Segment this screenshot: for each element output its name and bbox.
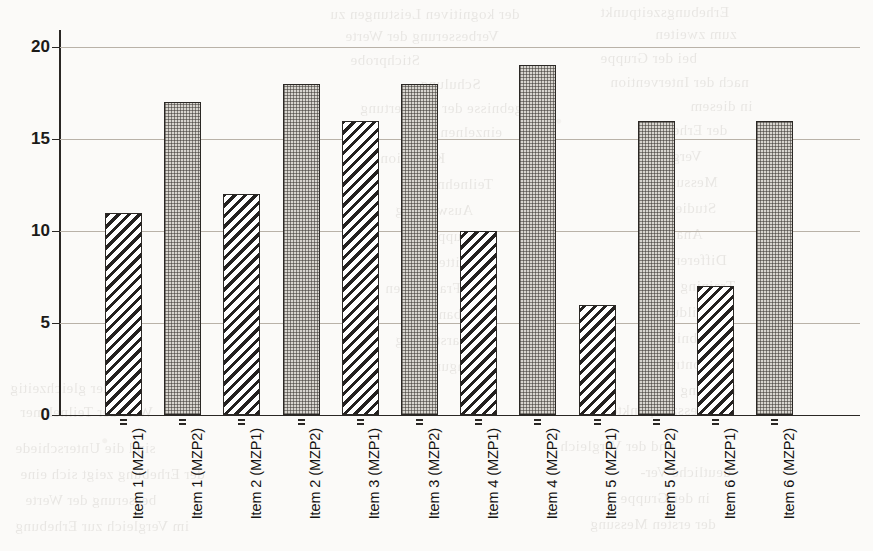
x-tick-mark: [416, 423, 423, 425]
bar: [697, 286, 734, 415]
x-tick-mark: [712, 419, 719, 421]
y-tick-label: 5: [41, 313, 50, 333]
x-tick-mark: [238, 423, 245, 425]
y-tick-label: 0: [41, 405, 50, 425]
bar: [460, 231, 497, 415]
plot-area: [60, 47, 860, 415]
bar: [342, 121, 379, 415]
x-tick-mark: [653, 423, 660, 425]
x-tick-mark: [298, 419, 305, 421]
x-tick-mark: [475, 423, 482, 425]
x-tick-mark: [179, 419, 186, 421]
x-tick-mark: [771, 423, 778, 425]
x-category-label: Item 2 (MZP1): [248, 428, 264, 519]
bar: [519, 65, 556, 415]
x-category-label: Item 5 (MZP2): [662, 428, 678, 519]
x-category-label: Item 4 (MZP1): [485, 428, 501, 519]
x-category-label: Item 5 (MZP1): [603, 428, 619, 519]
bar: [756, 121, 793, 415]
x-category-label: Item 6 (MZP2): [781, 428, 797, 519]
x-tick-mark: [120, 423, 127, 425]
x-tick-mark: [120, 419, 127, 421]
x-tick-mark: [179, 423, 186, 425]
x-tick-mark: [298, 423, 305, 425]
bar: [223, 194, 260, 415]
gridline: [60, 47, 860, 48]
y-tick-label: 20: [31, 37, 50, 57]
x-category-label: Item 1 (MZP2): [189, 428, 205, 519]
bar: [164, 102, 201, 415]
y-tick-label: 15: [31, 129, 50, 149]
bar: [579, 305, 616, 415]
bar: [638, 121, 675, 415]
bar: [401, 84, 438, 415]
x-tick-mark: [594, 423, 601, 425]
x-tick-mark: [416, 419, 423, 421]
x-category-label: Item 1 (MZP1): [130, 428, 146, 519]
x-tick-mark: [357, 423, 364, 425]
x-category-label: Item 6 (MZP1): [722, 428, 738, 519]
x-tick-mark: [357, 419, 364, 421]
y-tick-label: 10: [31, 221, 50, 241]
y-axis-tick-labels: 05101520: [0, 0, 50, 551]
x-tick-mark: [238, 419, 245, 421]
x-tick-mark: [534, 419, 541, 421]
x-tick-mark: [712, 423, 719, 425]
x-tick-mark: [534, 423, 541, 425]
x-tick-mark: [771, 419, 778, 421]
x-tick-mark: [594, 419, 601, 421]
x-category-label: Item 3 (MZP2): [426, 428, 442, 519]
bar-chart-figure: 05101520 Item 1 (MZP1)Item 1 (MZP2)Item …: [0, 0, 873, 551]
x-tick-mark: [475, 419, 482, 421]
x-category-label: Item 3 (MZP1): [366, 428, 382, 519]
x-category-label: Item 2 (MZP2): [307, 428, 323, 519]
x-category-label: Item 4 (MZP2): [544, 428, 560, 519]
x-tick-mark: [653, 419, 660, 421]
bar: [283, 84, 320, 415]
bar: [105, 213, 142, 415]
